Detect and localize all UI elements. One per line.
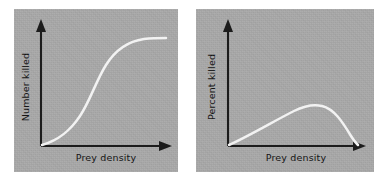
number-killed-panel: Prey density Number killed [14,9,178,172]
percent-killed-plot: Prey density Percent killed [196,9,374,172]
x-axis-label-left: Prey density [76,152,137,163]
x-axis-label-right: Prey density [266,152,327,163]
hump-curve [229,105,358,145]
y-axis-label-left: Number killed [20,53,31,121]
sigmoid-curve [42,38,166,145]
y-axis-label-right: Percent killed [206,54,217,120]
number-killed-plot: Prey density Number killed [14,9,178,172]
y-axis-arrow-right [223,19,233,32]
x-axis-arrow-left [159,141,172,151]
y-axis-arrow-left [36,19,46,32]
percent-killed-panel: Prey density Percent killed [196,9,374,172]
figure-root: Prey density Number killed Prey density … [0,0,389,179]
